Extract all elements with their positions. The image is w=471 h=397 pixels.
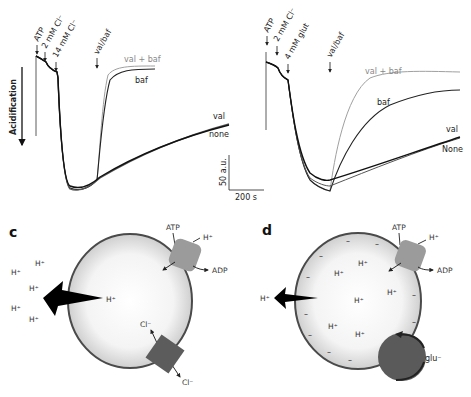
- svg-text:–: –: [348, 356, 352, 365]
- h-line: [193, 238, 200, 242]
- adp-label: ADP: [212, 266, 228, 275]
- label-none: none: [209, 130, 229, 139]
- label-val-baf: val + baf: [365, 67, 402, 76]
- h-inside: H⁺: [354, 296, 364, 305]
- h-inside: H⁺: [106, 295, 116, 304]
- h-inside: H⁺: [358, 259, 368, 268]
- panel-a: Acidification ATP 2 mM Cl⁻ 14 mM Cl⁻ val…: [9, 14, 264, 202]
- h-inside: H⁺: [355, 330, 365, 339]
- h-line: [418, 240, 426, 244]
- panel-letter-d: d: [262, 222, 272, 238]
- panel-d: d – – – – – – – – – – H⁺ H⁺ H⁺ H⁺ H⁺ H⁺ …: [260, 222, 453, 381]
- h-outside: H⁺: [260, 294, 270, 303]
- scale-x-label: 200 s: [235, 193, 257, 202]
- label-baf: baf: [377, 98, 390, 107]
- svg-text:–: –: [304, 310, 308, 319]
- h-outside: H⁺: [29, 284, 39, 293]
- trace-none: [266, 62, 460, 180]
- label-val-baf: val + baf: [124, 55, 161, 64]
- atp-label: ATP: [166, 223, 180, 232]
- svg-text:–: –: [306, 273, 310, 282]
- label-baf: baf: [135, 76, 148, 85]
- h-outside: H⁺: [11, 304, 21, 313]
- cl-out-label: Cl⁻: [182, 378, 193, 387]
- svg-text:–: –: [346, 237, 350, 246]
- panel-letter-c: c: [9, 224, 17, 240]
- svg-text:–: –: [412, 318, 416, 327]
- h-inside: H⁺: [334, 269, 344, 278]
- glu-label: glu⁻: [425, 354, 442, 363]
- h-pump-label: H⁺: [429, 233, 439, 242]
- acidification-label: Acidification: [9, 79, 18, 135]
- panel-c: c H⁺ H⁺ H⁺ H⁺ H⁺ H⁺ ATP H⁺ ADP Cl⁻ Cl⁻: [9, 223, 228, 387]
- h-pump-label: H⁺: [203, 233, 213, 242]
- svg-text:–: –: [327, 348, 331, 357]
- adp-label: ADP: [437, 266, 453, 275]
- h-inside: H⁺: [328, 322, 338, 331]
- svg-text:–: –: [412, 291, 416, 300]
- atp-annotation: ATP: [262, 17, 277, 34]
- valbaf-annotation: val/baf: [92, 28, 114, 56]
- h-outside: H⁺: [29, 315, 39, 324]
- cl-out-arrow: [172, 365, 180, 377]
- atp-line: [399, 233, 400, 245]
- label-val: val: [213, 112, 225, 121]
- h-outside: H⁺: [35, 259, 45, 268]
- label-none: None: [442, 145, 463, 154]
- label-val: val: [446, 125, 458, 134]
- h-inside: H⁺: [387, 288, 397, 297]
- trace-none: [36, 56, 229, 188]
- svg-text:–: –: [319, 252, 323, 261]
- svg-text:–: –: [308, 331, 312, 340]
- valbaf-annotation: val/baf: [325, 31, 347, 59]
- scale-y-label: 50 a.u.: [219, 158, 228, 186]
- cl-in-label: Cl⁻: [140, 320, 151, 329]
- figure: Acidification ATP 2 mM Cl⁻ 14 mM Cl⁻ val…: [0, 0, 471, 397]
- h-outside: H⁺: [11, 268, 21, 277]
- atp-label: ATP: [392, 223, 406, 232]
- panel-b: ATP 2 mM Cl⁻ 4 mM glut val/baf val + baf…: [262, 7, 463, 191]
- svg-text:–: –: [375, 240, 379, 249]
